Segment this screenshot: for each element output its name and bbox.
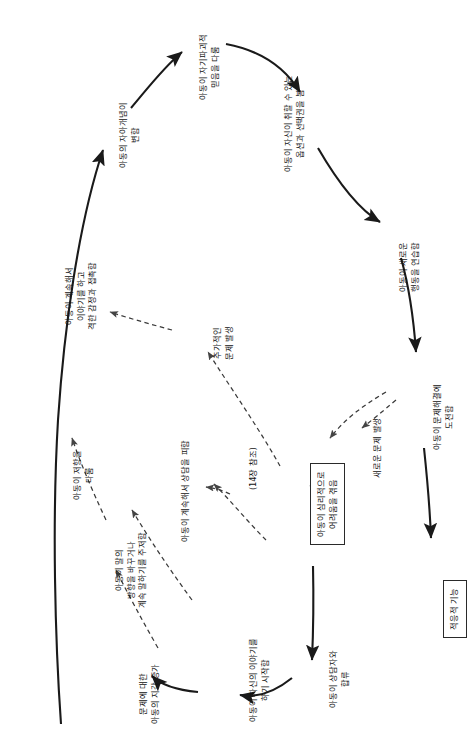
node-n13-label: (14장 참조) bbox=[248, 447, 260, 490]
node-n14-label: 아동이 말의 방향을 바꾸거나 계속 말하기를 주저함 bbox=[114, 532, 149, 608]
node-n17-label: 아동이 상담자와 합류 bbox=[328, 650, 351, 708]
node-n16-label: 아동이 자신의 이야기를 하기 시작함 bbox=[248, 638, 271, 722]
node-n6-label: 적응적 기능 bbox=[443, 580, 467, 638]
node-n10-label: 아동이 계속해서 이야기를 하고 격한 감정과 접촉함 bbox=[64, 262, 99, 330]
node-n12-label: 아동이 계속해서 상담을 피함 bbox=[180, 440, 192, 542]
node-n8-label: 아동이 심리적으로 어려움을 겪음 bbox=[310, 463, 345, 545]
diagram-canvas: 아동의 자아개념이 변함 아동이 자기파괴적 믿음을 다룸 아동이 자신이 취할… bbox=[0, 0, 472, 729]
node-n1-label: 아동의 자아개념이 변함 bbox=[118, 102, 141, 168]
node-n5-label: 아동이 문제해결에 도전함 bbox=[432, 384, 455, 450]
node-n4-label: 아동이 새로운 행동을 연습함 bbox=[398, 242, 421, 292]
node-n11-label: 아동이 저항을 다룸 bbox=[72, 450, 95, 500]
node-n9-label: 추가적인 문제 발생 bbox=[212, 326, 235, 360]
node-n3-label: 아동이 자신이 취할 수 있는 옵션과 선택권을 봄 bbox=[283, 75, 306, 172]
solid-flow-arrows bbox=[55, 44, 431, 724]
node-n2-label: 아동이 자기파괴적 믿음을 다룸 bbox=[198, 34, 221, 100]
diagram-connectors bbox=[0, 0, 472, 729]
node-n15-label: 문제에 대한 아동의 지각 증가 bbox=[138, 664, 161, 724]
node-n7-label: 새로운 문제 발생 bbox=[372, 418, 384, 478]
